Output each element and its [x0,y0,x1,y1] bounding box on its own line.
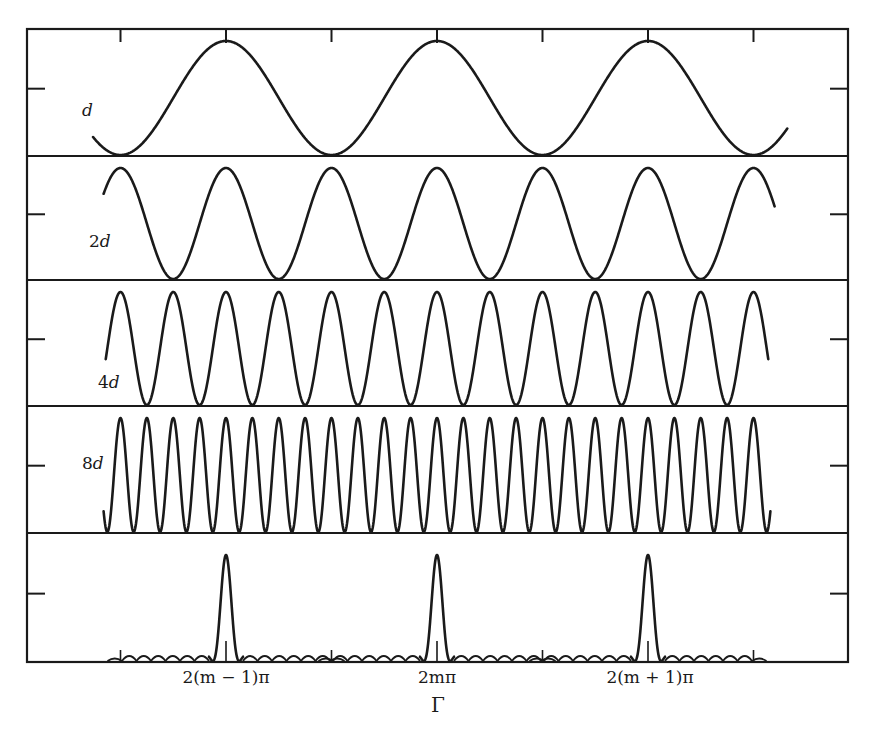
side-lobe [680,656,695,661]
label-prefix: 4 [98,372,109,392]
x-axis-label-gamma: Γ [431,695,445,715]
side-lobe [665,656,680,661]
panel-label-8d: 8d [82,455,104,472]
side-lobe [243,656,258,661]
label-var: d [100,231,111,251]
side-lobe [137,656,152,661]
side-lobe [573,656,588,661]
side-lobe [723,656,738,661]
panel-label-2d: 2d [89,233,111,250]
x-tick-label-m-minus-1: 2(m − 1)π [182,669,269,686]
side-lobe [391,656,406,661]
side-lobe [709,656,724,661]
x-tick-label-m: 2mπ [418,669,456,686]
curve-8d [104,418,771,532]
side-lobe [602,656,617,661]
label-var: d [109,372,120,392]
plot-area [0,0,874,734]
panel-label-4d: 4d [98,374,120,391]
panel-label-d: d [82,102,93,119]
side-lobe [151,656,166,661]
side-lobe [559,656,574,661]
side-lobe [287,656,302,661]
side-lobe [694,656,709,661]
side-lobe [362,656,377,661]
side-lobe [483,656,498,661]
curve-2d [104,168,775,279]
side-lobe [588,656,603,661]
side-lobe [166,656,181,661]
plot-frame [27,29,848,662]
curve-4d [106,292,769,405]
label-var: d [93,453,104,473]
side-lobe [377,656,392,661]
figure: d 2d 4d 8d 2(m − 1)π 2mπ 2(m + 1)π Γ [0,0,874,734]
side-lobe [195,656,210,661]
label-var: d [82,100,93,120]
side-lobe [272,656,287,661]
label-prefix: 8 [82,453,93,473]
side-lobe [258,656,273,661]
side-lobe [454,656,469,661]
curve-d [93,41,787,155]
x-tick-label-m-plus-1: 2(m + 1)π [606,669,693,686]
side-lobe [469,656,484,661]
side-lobe [498,656,513,661]
side-lobe [122,656,137,661]
side-lobe [617,656,632,661]
label-prefix: 2 [89,231,100,251]
side-lobe [512,656,527,661]
side-lobe [180,656,195,661]
side-lobe [738,656,753,661]
side-lobe [301,656,316,661]
side-lobe [348,656,363,661]
side-lobe [406,656,421,661]
